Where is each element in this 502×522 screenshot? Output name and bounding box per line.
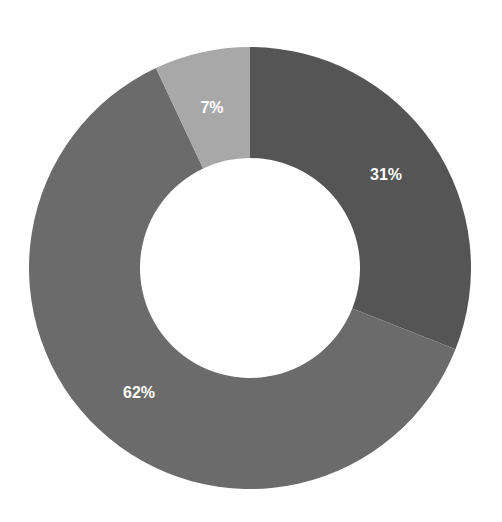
data-label: 62% <box>123 384 155 401</box>
donut-chart: 31%62%7% <box>0 0 502 522</box>
donut-slices <box>29 47 471 489</box>
data-label: 7% <box>200 99 223 116</box>
donut-slice-31pct <box>250 47 471 349</box>
data-label: 31% <box>370 166 402 183</box>
donut-chart-canvas: 31%62%7% <box>0 0 502 522</box>
